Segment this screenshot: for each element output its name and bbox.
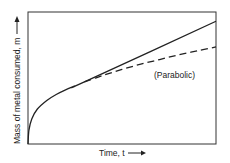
x-axis-label: Time, t [99, 148, 125, 158]
chart: (Parabolic) Time, t Mass of metal consum… [0, 0, 230, 163]
x-arrow-icon [128, 151, 146, 156]
y-axis-label: Mass of metal consumed, m [12, 38, 22, 144]
series-line-linear [28, 21, 216, 144]
series-layer [28, 21, 216, 144]
annotation-parabolic: (Parabolic) [154, 70, 195, 80]
y-arrow-icon [15, 16, 20, 34]
